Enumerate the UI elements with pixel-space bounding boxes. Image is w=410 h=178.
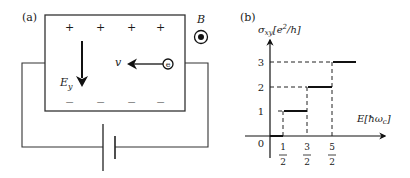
negative-charges: − − − −: [65, 96, 165, 109]
y-axis-label: σxy[e2/h]: [258, 23, 301, 37]
x-tick-fraction: 1 2: [279, 142, 287, 167]
panel-b-hall-conductance-plot: (b) σxy[e2/h] E[ħωc] 0 1 2 3 1 2 3 2: [240, 11, 391, 167]
electric-field-label: Ey: [59, 76, 73, 91]
plus-sign: +: [96, 21, 105, 34]
y-tick-label: 0: [258, 138, 264, 149]
minus-sign: −: [127, 96, 136, 109]
minus-sign: −: [156, 96, 165, 109]
minus-sign: −: [96, 96, 105, 109]
svg-text:5: 5: [329, 142, 335, 152]
positive-charges: + + + +: [65, 21, 165, 34]
hall-plateaus: [270, 62, 356, 136]
svg-text:3: 3: [304, 142, 310, 152]
x-axis-label: E[ħωc]: [356, 113, 391, 126]
plus-sign: +: [127, 21, 136, 34]
svg-text:2: 2: [280, 157, 286, 167]
battery-icon: [103, 124, 115, 171]
x-tick-fraction: 3 2: [303, 142, 311, 167]
left-arrow-icon: [127, 59, 163, 70]
svg-text:1: 1: [280, 142, 286, 152]
x-tick-fraction: 5 2: [328, 142, 336, 167]
velocity-label: v: [115, 56, 122, 69]
out-of-page-dot-icon: [195, 31, 208, 44]
panel-b-label: (b): [240, 11, 256, 24]
electron-icon: e: [163, 59, 173, 69]
svg-text:2: 2: [304, 157, 310, 167]
y-tick-label: 3: [258, 57, 264, 68]
plus-sign: +: [65, 21, 74, 34]
svg-text:e: e: [166, 60, 171, 69]
plus-sign: +: [156, 21, 165, 34]
y-tick-label: 1: [258, 106, 264, 117]
y-tick-label: 2: [258, 82, 264, 93]
magnetic-field-label: B: [196, 13, 205, 26]
svg-text:2: 2: [329, 157, 335, 167]
circuit-wire: [22, 63, 208, 147]
panel-a-label: (a): [22, 11, 37, 24]
minus-sign: −: [65, 96, 74, 109]
panel-a-hall-setup: (a) + + + + − − − − Ey e: [22, 11, 208, 171]
dashed-guides: [270, 62, 332, 136]
down-arrow-icon: [76, 41, 88, 87]
